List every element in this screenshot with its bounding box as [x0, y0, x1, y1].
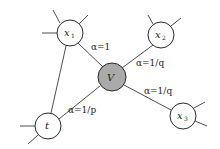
node-x2-label: x [155, 29, 161, 40]
edge-x1-t [51, 46, 66, 113]
node-x1: x 1 [57, 20, 83, 46]
x3-stub-down-right [195, 121, 207, 126]
node-t: t [35, 113, 61, 139]
x1-stub-up-left [53, 10, 60, 23]
x3-stub-up-right [194, 102, 205, 108]
t-stub-down-left [28, 135, 38, 144]
node-x1-circle [57, 20, 83, 46]
node2vec-diagram: x 1 x 2 V t x 3 α=1 α=1/q α=1/p α=1/q [0, 0, 220, 149]
node-x3-label: x [177, 110, 183, 121]
node-x2: x 2 [148, 22, 174, 48]
edge-label-t-V: α=1/p [68, 105, 96, 115]
edge-label-x3-V: α=1/q [144, 86, 172, 96]
x2-stub-up-right [171, 18, 181, 26]
edge-label-x1-V: α=1 [91, 42, 110, 52]
x1-stub-up-right [79, 15, 88, 24]
node-x3: x 3 [170, 103, 196, 129]
node-V: V [98, 63, 126, 91]
node-x1-label: x [64, 27, 70, 38]
x2-stub-up-left [148, 15, 153, 24]
edge-label-x2-V: α=1/q [136, 58, 164, 68]
node-x1-subscript: 1 [71, 32, 75, 39]
node-x3-circle [170, 103, 196, 129]
node-x3-subscript: 3 [184, 115, 188, 122]
node-x2-circle [148, 22, 174, 48]
node-x2-subscript: 2 [162, 34, 166, 41]
